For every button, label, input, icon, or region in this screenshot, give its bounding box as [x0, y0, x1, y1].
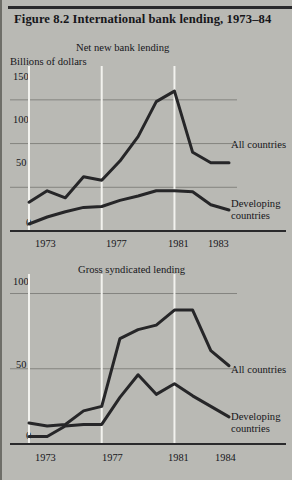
chart-1-plot — [2, 0, 292, 250]
figure-panel: Figure 8.2 International bank lending, 1… — [0, 0, 292, 480]
chart-2-plot — [2, 250, 292, 480]
